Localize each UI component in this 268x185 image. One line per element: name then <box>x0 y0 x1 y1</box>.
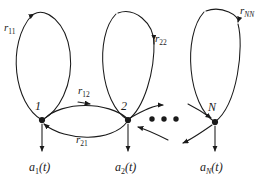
label-r12: r12 <box>78 85 90 99</box>
diagram-canvas <box>0 0 268 185</box>
output-label-a1: a1(t) <box>29 161 50 176</box>
label-r21: r21 <box>76 134 88 148</box>
ellipsis-dot-1 <box>149 116 154 121</box>
link-node2-in-right <box>138 127 168 140</box>
self-loop-r22-right <box>118 12 154 44</box>
ellipsis-dot-2 <box>161 116 166 121</box>
node-dot-2[interactable] <box>125 117 131 123</box>
self-loop-rNN-right <box>206 9 238 22</box>
node-label-1: 1 <box>35 100 41 112</box>
node-dot-N[interactable] <box>212 119 218 125</box>
ellipsis-dot-3 <box>173 116 178 121</box>
link-node2-out-right <box>130 105 163 118</box>
node-label-N: N <box>208 101 216 113</box>
link-r12-arrowhead <box>78 102 90 104</box>
output-label-a2: a2(t) <box>115 161 136 176</box>
node-dot-1[interactable] <box>39 117 45 123</box>
label-r11: r11 <box>4 22 16 36</box>
label-r22: r22 <box>155 33 167 47</box>
link-nodeN-out-left <box>183 125 212 143</box>
node-label-2: 2 <box>121 100 127 112</box>
recurrent-node-diagram: r11 r22 rNN r12 r21 1 2 N a1(t) a2(t) aN… <box>0 0 268 185</box>
output-label-aN: aN(t) <box>200 161 223 176</box>
self-loop-rNN-tail <box>215 24 240 122</box>
node-ellipsis <box>149 116 178 121</box>
label-rNN: rNN <box>240 5 254 19</box>
